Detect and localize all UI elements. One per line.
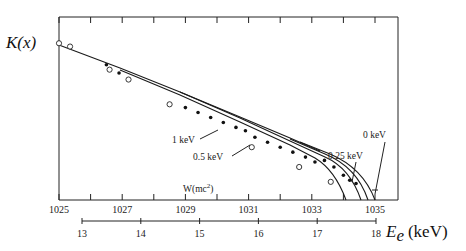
- plot-frame: [59, 17, 398, 200]
- open-circle-point: [107, 67, 112, 72]
- energy-tick-label: 16: [253, 228, 263, 239]
- open-circle-point: [297, 164, 302, 169]
- filled-dot-point: [278, 145, 282, 149]
- w-tick-label: 1025: [49, 204, 69, 215]
- filled-dot-point: [348, 178, 352, 182]
- w-tick-label: 1031: [239, 204, 259, 215]
- label-0kev: 0 keV: [363, 130, 386, 140]
- w-tick-label: 1035: [365, 204, 385, 215]
- filled-dot-point: [304, 155, 308, 159]
- w-tick-label: 1033: [302, 204, 322, 215]
- filled-dot-point: [117, 71, 121, 75]
- label-0.5kev: 0.5 keV: [193, 152, 223, 162]
- filled-dot-point: [323, 159, 327, 163]
- energy-axis-label: Ee(keV): [385, 222, 448, 245]
- filled-dot-point: [253, 136, 257, 140]
- filled-dot-point: [266, 140, 270, 144]
- filled-dot-point: [209, 116, 213, 120]
- energy-tick-label: 17: [312, 228, 322, 239]
- w-tick-label: 1029: [175, 204, 195, 215]
- filled-dot-point: [244, 129, 248, 133]
- open-circle-point: [67, 44, 72, 49]
- filled-dot-point: [291, 150, 295, 154]
- open-circle-point: [167, 102, 172, 107]
- kurie-plot: 102510271029103110331035 131415161718 1 …: [0, 0, 466, 251]
- filled-dot-point: [234, 126, 238, 130]
- filled-dot-point: [342, 173, 346, 177]
- filled-dot-point: [184, 106, 188, 110]
- open-circle-point: [56, 41, 61, 46]
- w-tick-label: 1027: [112, 204, 132, 215]
- open-circle-point: [328, 179, 333, 184]
- data-points: [56, 41, 357, 186]
- w-axis-tick-labels: 102510271029103110331035: [49, 204, 385, 215]
- filled-dot-point: [354, 182, 358, 186]
- filled-dot-point: [332, 165, 336, 169]
- curve-1kev: [120, 70, 346, 200]
- filled-dot-point: [105, 63, 109, 67]
- y-axis-label: K(x): [5, 33, 37, 52]
- theory-curves: [59, 45, 375, 200]
- filled-dot-point: [196, 111, 200, 115]
- label-1kev: 1 keV: [172, 135, 195, 145]
- open-circle-point: [126, 77, 131, 82]
- w-axis-ticks: [59, 194, 375, 200]
- w-axis-label: W(mc2): [183, 182, 213, 195]
- energy-tick-label: 15: [195, 228, 205, 239]
- filled-dot-point: [313, 160, 317, 164]
- energy-axis: 131415161718: [77, 218, 381, 239]
- filled-dot-point: [222, 121, 226, 125]
- top-ticks: [59, 17, 375, 23]
- energy-tick-label: 18: [371, 228, 381, 239]
- energy-tick-label: 14: [136, 228, 146, 239]
- label-0.25kev: 0.25 keV: [328, 151, 363, 161]
- energy-tick-label: 13: [77, 228, 87, 239]
